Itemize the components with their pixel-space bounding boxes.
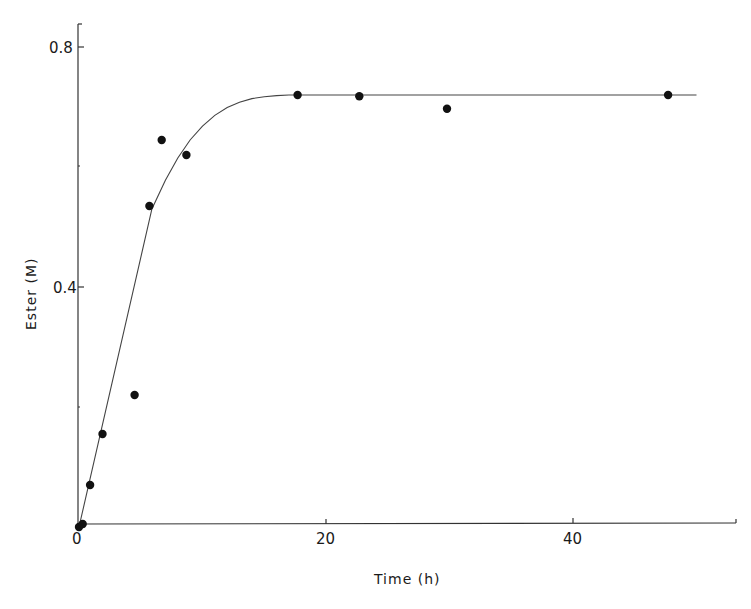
y-tick-label-0.8: 0.8 (49, 39, 73, 57)
y-axis-label: Ester (M) (23, 258, 39, 330)
x-axis (78, 523, 736, 524)
y-tick-label-0.4: 0.4 (53, 279, 77, 297)
x-tick-label-0: 0 (72, 530, 82, 548)
data-point (443, 105, 451, 113)
data-point (98, 430, 106, 438)
data-point (158, 136, 166, 144)
x-tick-label-40: 40 (563, 530, 582, 548)
axes (78, 24, 736, 524)
data-points (75, 91, 673, 531)
data-point (145, 202, 153, 210)
data-point (293, 91, 301, 99)
data-point (86, 481, 94, 489)
data-point (79, 520, 87, 528)
x-axis-label: Time (h) (373, 571, 441, 587)
fit-curve (79, 95, 697, 527)
data-point (355, 92, 363, 100)
x-tick-label-20: 20 (316, 530, 335, 548)
data-point (130, 391, 138, 399)
data-point (664, 91, 672, 99)
ester-vs-time-chart: 0 20 40 0.8 0.4 Time (h) Ester (M) (0, 0, 751, 609)
data-point (182, 151, 190, 159)
